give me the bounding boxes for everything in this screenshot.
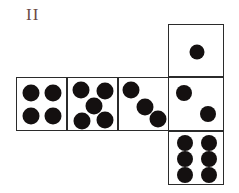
die-face-top	[168, 24, 224, 77]
die-pip	[177, 167, 193, 183]
die-pip	[73, 81, 90, 98]
die-pip	[177, 151, 193, 167]
die-pip	[200, 106, 216, 122]
die-pip	[73, 113, 90, 130]
die-pip	[45, 108, 62, 125]
figure-label: II	[26, 5, 39, 25]
die-pip	[97, 112, 114, 129]
die-pip	[201, 151, 217, 167]
die-pip	[176, 85, 192, 101]
die-pip	[201, 135, 217, 151]
die-pip	[23, 84, 40, 101]
die-face-bottom	[168, 131, 224, 185]
die-pip	[23, 108, 40, 125]
die-pip	[190, 44, 205, 59]
die-pip	[149, 111, 166, 128]
die-pip	[177, 135, 193, 151]
die-pip	[97, 82, 114, 99]
die-pip	[85, 98, 102, 115]
die-face-row-3	[118, 77, 169, 131]
die-face-row-1	[16, 77, 67, 131]
die-face-row-2	[67, 77, 118, 131]
die-pip	[122, 81, 139, 98]
die-pip	[45, 84, 62, 101]
die-face-row-4	[168, 77, 224, 131]
dice-net-figure: II	[0, 0, 239, 193]
die-pip	[201, 167, 217, 183]
